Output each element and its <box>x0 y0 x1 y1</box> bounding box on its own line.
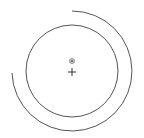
diagram-canvas <box>0 0 144 138</box>
marker-dot-icon <box>70 59 75 64</box>
center-cross-icon <box>68 68 76 76</box>
